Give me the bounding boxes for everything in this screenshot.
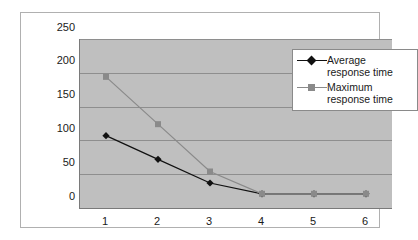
y-tick-label: 250 bbox=[29, 22, 75, 33]
diamond-marker-icon[interactable] bbox=[206, 179, 213, 186]
x-axis-labels: 1 2 3 4 5 6 bbox=[79, 216, 391, 232]
x-tick-label: 2 bbox=[142, 216, 172, 227]
y-tick-label: 150 bbox=[29, 89, 75, 100]
square-marker-icon[interactable] bbox=[103, 74, 109, 80]
square-marker-icon bbox=[308, 84, 315, 91]
x-tick-label: 4 bbox=[246, 216, 276, 227]
square-marker-icon[interactable] bbox=[207, 169, 213, 175]
diamond-marker-icon[interactable] bbox=[154, 156, 161, 163]
x-tick-label: 6 bbox=[350, 216, 380, 227]
chart-card: 250 200 150 100 50 0 Average response ti… bbox=[20, 12, 380, 228]
y-tick-label: 100 bbox=[29, 123, 75, 134]
square-marker-icon[interactable] bbox=[363, 191, 369, 197]
square-marker-icon[interactable] bbox=[311, 191, 317, 197]
x-tick-label: 1 bbox=[90, 216, 120, 227]
square-marker-icon[interactable] bbox=[155, 121, 161, 127]
legend-label-average: Average response time bbox=[327, 54, 412, 78]
x-tick-label: 5 bbox=[298, 216, 328, 227]
legend-label-maximum: Maximum response time bbox=[327, 81, 412, 105]
y-tick-label: 0 bbox=[29, 191, 75, 202]
y-axis-labels: 250 200 150 100 50 0 bbox=[25, 13, 75, 229]
y-tick-label: 200 bbox=[29, 55, 75, 66]
diamond-marker-icon bbox=[307, 56, 317, 66]
x-tick-label: 3 bbox=[194, 216, 224, 227]
legend-key-average bbox=[297, 55, 327, 67]
chart-legend: Average response time Maximum response t… bbox=[292, 49, 418, 111]
y-tick-label: 50 bbox=[29, 157, 75, 168]
legend-entry-average[interactable]: Average response time bbox=[297, 54, 412, 78]
plot-area: Average response time Maximum response t… bbox=[79, 39, 392, 209]
legend-entry-maximum[interactable]: Maximum response time bbox=[297, 81, 412, 105]
legend-key-maximum bbox=[297, 82, 327, 94]
square-marker-icon[interactable] bbox=[259, 191, 265, 197]
diamond-marker-icon[interactable] bbox=[102, 132, 109, 139]
series-line-average bbox=[106, 136, 366, 194]
